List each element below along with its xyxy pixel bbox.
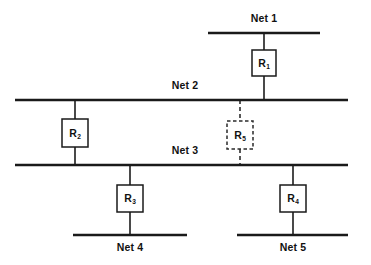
router-label-r1: R1 [258, 58, 269, 69]
diagram-canvas [0, 0, 371, 265]
net-label-net4: Net 4 [117, 242, 144, 253]
net-label-net1: Net 1 [251, 13, 278, 24]
router-label-r3-sub: 3 [132, 198, 136, 205]
router-label-r2: R2 [69, 128, 80, 139]
network-topology-diagram: Net 1 Net 2 Net 3 Net 4 Net 5 R1 R2 R5 R… [0, 0, 371, 265]
net-label-net3: Net 3 [172, 145, 199, 156]
router-label-r4-sub: 4 [295, 198, 299, 205]
net-label-net5: Net 5 [280, 242, 307, 253]
router-label-r4: R4 [287, 193, 298, 204]
router-label-r2-base: R [69, 127, 77, 139]
router-label-r5: R5 [234, 130, 245, 141]
router-label-r3-base: R [124, 192, 132, 204]
router-label-r1-base: R [258, 57, 266, 69]
router-label-r1-sub: 1 [266, 63, 270, 70]
router-label-r3: R3 [124, 193, 135, 204]
net-label-net2: Net 2 [172, 80, 199, 91]
router-label-r4-base: R [287, 192, 295, 204]
router-label-r5-sub: 5 [242, 135, 246, 142]
router-label-r5-base: R [234, 129, 242, 141]
router-label-r2-sub: 2 [77, 133, 81, 140]
